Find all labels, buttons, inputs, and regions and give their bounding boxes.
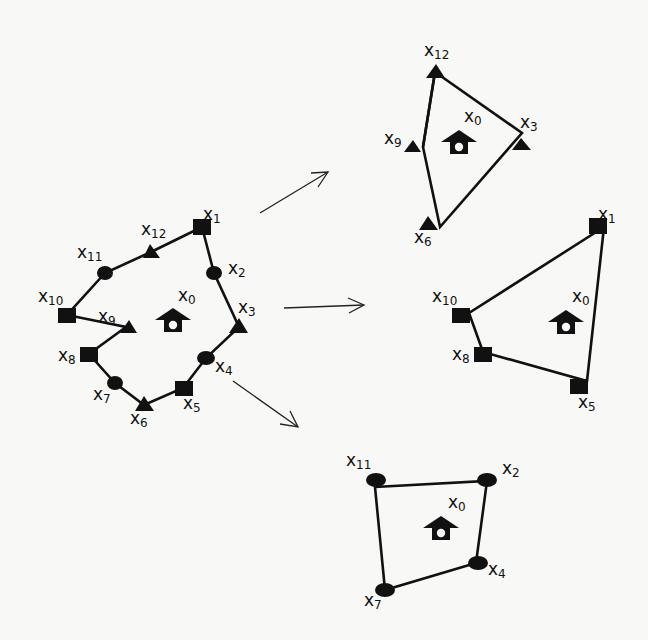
- node-x2-circle: [477, 473, 497, 487]
- label-x5: x5: [183, 393, 201, 415]
- label-x12: x12: [424, 40, 449, 62]
- node-x10-square: [452, 308, 470, 323]
- node-x8-square: [474, 347, 492, 362]
- node-x7-circle: [375, 583, 395, 597]
- label-x3: x3: [238, 297, 256, 319]
- label-x10: x10: [432, 286, 457, 308]
- label-x4: x4: [488, 559, 506, 581]
- node-x12-triangle: [426, 64, 445, 78]
- label-x6: x6: [414, 227, 432, 249]
- subgraph-circles-edges: [375, 481, 487, 590]
- center-x0-icon: [423, 516, 459, 540]
- label-x11: x11: [346, 450, 371, 472]
- label-x5: x5: [578, 392, 596, 414]
- node-x11-circle: [97, 266, 113, 280]
- center-x0-icon: [155, 308, 191, 332]
- main-graph: x1 x2 x3 x4 x5 x6 x7 x8 x9 x10 x11 x12 x…: [38, 204, 256, 430]
- center-x0-icon: [548, 310, 584, 334]
- label-x11: x11: [77, 242, 102, 264]
- label-x8: x8: [452, 344, 470, 366]
- subgraph-circles: x11 x2 x4 x7 x0: [346, 450, 520, 612]
- label-x1: x1: [203, 204, 221, 226]
- arrows: [233, 172, 364, 427]
- arrow-to-triangles: [260, 172, 328, 213]
- label-x0: x0: [448, 492, 466, 514]
- node-x12-triangle: [143, 244, 160, 258]
- node-x4-circle: [468, 556, 488, 570]
- subgraph-squares: x1 x5 x8 x10 x0: [432, 204, 616, 414]
- label-x0: x0: [572, 286, 590, 308]
- node-x7-circle: [107, 376, 123, 390]
- node-x10-square: [58, 308, 76, 323]
- label-x4: x4: [215, 356, 233, 378]
- node-x9-triangle: [404, 140, 421, 152]
- label-x8: x8: [58, 345, 76, 367]
- arrow-to-circles: [233, 381, 298, 427]
- label-x9: x9: [98, 306, 116, 328]
- label-x1: x1: [598, 204, 616, 226]
- label-x3: x3: [520, 112, 538, 134]
- node-x4-circle: [197, 351, 215, 365]
- label-x6: x6: [130, 408, 148, 430]
- center-x0-icon: [441, 130, 477, 154]
- node-x8-square: [80, 347, 98, 362]
- node-x3-triangle: [229, 318, 248, 333]
- label-x0: x0: [178, 285, 196, 307]
- arrow-to-squares: [284, 298, 364, 313]
- label-x10: x10: [38, 286, 63, 308]
- label-x2: x2: [502, 458, 520, 480]
- diagram-canvas: x1 x2 x3 x4 x5 x6 x7 x8 x9 x10 x11 x12 x…: [0, 0, 648, 640]
- subgraph-triangles: x12 x3 x6 x9 x0: [384, 40, 538, 249]
- subgraph-triangles-edges: [423, 72, 522, 227]
- node-x2-circle: [206, 266, 222, 280]
- node-x11-circle: [366, 473, 386, 487]
- label-x12: x12: [141, 219, 166, 241]
- label-x2: x2: [228, 258, 246, 280]
- label-x7: x7: [93, 384, 111, 406]
- label-x0: x0: [464, 106, 482, 128]
- label-x9: x9: [384, 128, 402, 150]
